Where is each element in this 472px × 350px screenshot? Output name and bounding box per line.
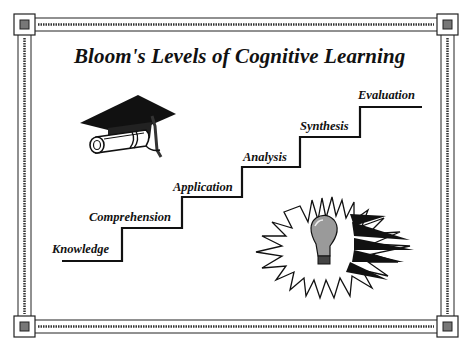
- light-bulb-icon: [0, 0, 472, 350]
